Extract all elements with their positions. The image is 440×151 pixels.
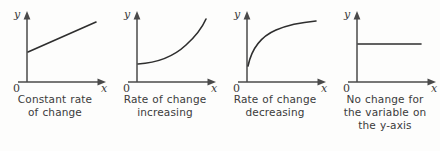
caption-line: decreasing (220, 106, 330, 119)
caption-line: Constant rate (0, 93, 110, 106)
caption-line: of change (0, 106, 110, 119)
plot-no-change-y-variable: y x 0 (330, 0, 440, 95)
y-axis-arrow-icon (244, 11, 251, 20)
caption-line: No change for (330, 93, 440, 106)
caption-line: the y-axis (330, 119, 440, 132)
caption-no-change-y-variable: No change for the variable on the y-axis (330, 93, 440, 132)
graph-svg-decreasing: y x 0 (220, 0, 330, 95)
data-curve-logarithmic (248, 21, 316, 66)
data-curve-exponential (138, 19, 206, 64)
caption-constant-rate-of-change: Constant rate of change (0, 93, 110, 119)
panel-rate-of-change-increasing: y x 0 Rate of change increasing (110, 0, 220, 151)
y-axis-label: y (343, 8, 351, 21)
caption-rate-of-change-increasing: Rate of change increasing (110, 93, 220, 119)
graph-svg-constant: y x 0 (0, 0, 110, 95)
caption-rate-of-change-decreasing: Rate of change decreasing (220, 93, 330, 119)
y-axis-label: y (233, 8, 241, 21)
y-axis-arrow-icon (354, 11, 361, 20)
caption-line: Rate of change (220, 93, 330, 106)
panel-constant-rate-of-change: y x 0 Constant rate of change (0, 0, 110, 151)
graph-svg-no-change: y x 0 (330, 0, 440, 95)
rate-of-change-figure: y x 0 Constant rate of change y x 0 (0, 0, 440, 151)
plot-rate-of-change-increasing: y x 0 (110, 0, 220, 95)
y-axis-label: y (123, 8, 131, 21)
panel-no-change-y-variable: y x 0 No change for the variable on the … (330, 0, 440, 151)
y-axis-arrow-icon (134, 11, 141, 20)
panel-rate-of-change-decreasing: y x 0 Rate of change decreasing (220, 0, 330, 151)
plot-constant-rate-of-change: y x 0 (0, 0, 110, 95)
y-axis-arrow-icon (24, 11, 31, 20)
caption-line: the variable on (330, 106, 440, 119)
caption-line: increasing (110, 106, 220, 119)
graph-svg-increasing: y x 0 (110, 0, 220, 95)
plot-rate-of-change-decreasing: y x 0 (220, 0, 330, 95)
data-curve-linear (28, 22, 96, 52)
caption-line: Rate of change (110, 93, 220, 106)
y-axis-label: y (13, 8, 21, 21)
